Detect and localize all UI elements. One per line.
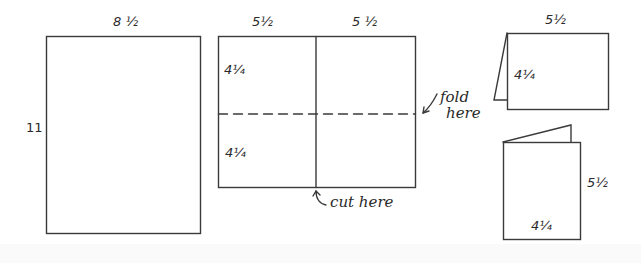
fold-here-annotation-line1: fold bbox=[440, 90, 469, 105]
sheet-width-label: 8 ½ bbox=[113, 14, 138, 29]
tent-card-width-label: 5½ bbox=[545, 12, 566, 27]
cut-sheet-top-height-label: 4¼ bbox=[224, 62, 245, 77]
cut-sheet-bottom-height-label: 4¼ bbox=[225, 145, 246, 160]
tent-card-height-label: 4¼ bbox=[514, 67, 535, 82]
tent-card-back-flap bbox=[494, 33, 507, 100]
fold-arrow-icon bbox=[423, 94, 437, 113]
cut-sheet bbox=[219, 37, 416, 188]
cut-sheet-left-width-label: 5½ bbox=[252, 14, 273, 29]
full-sheet bbox=[47, 37, 201, 234]
fold-here-annotation-line2: here bbox=[446, 106, 481, 121]
booklet-card-height-label: 5½ bbox=[587, 175, 608, 190]
booklet-card-width-label: 4¼ bbox=[531, 218, 552, 233]
cut-here-annotation: cut here bbox=[330, 195, 393, 210]
booklet-card-back-flap bbox=[503, 125, 571, 142]
sheet-height-label: 11 bbox=[26, 120, 43, 135]
cut-sheet-right-width-label: 5 ½ bbox=[352, 14, 377, 29]
